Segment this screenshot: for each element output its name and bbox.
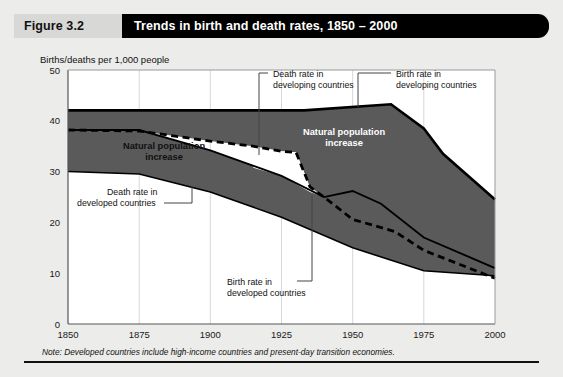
birth-developing-line1: Birth rate in	[396, 69, 441, 79]
chart-svg: 50 40 30 20 10 0 1850 1875 1900 1925 195…	[14, 42, 549, 342]
y-tick-20: 20	[49, 217, 60, 228]
death-developed-line1: Death rate in	[107, 187, 157, 197]
y-tick-40: 40	[49, 115, 60, 126]
figure-number-chip: Figure 3.2	[14, 14, 122, 38]
x-tick-1925: 1925	[271, 329, 292, 340]
nat-pop-right-line1: Natural population	[303, 127, 385, 137]
x-tick-labels: 1850 1875 1900 1925 1950 1975 2000	[57, 329, 505, 340]
death-developing-line1: Death rate in	[273, 69, 323, 79]
x-tick-2000: 2000	[484, 329, 505, 340]
nat-pop-left-line1: Natural population	[123, 141, 205, 151]
birth-developed-line1: Birth rate in	[227, 277, 272, 287]
figure-bottom-rule	[24, 361, 539, 363]
y-tick-0: 0	[55, 319, 60, 330]
birth-developed-line2: developed countries	[227, 288, 306, 298]
x-tick-1900: 1900	[200, 329, 221, 340]
figure-note: Note: Developed countries include high-i…	[42, 347, 395, 357]
figure-container: Figure 3.2 Trends in birth and death rat…	[0, 0, 563, 377]
chart-plot-area: 50 40 30 20 10 0 1850 1875 1900 1925 195…	[14, 42, 549, 342]
figure-header: Figure 3.2 Trends in birth and death rat…	[14, 14, 549, 38]
y-tick-50: 50	[49, 65, 60, 76]
figure-number-text: Figure 3.2	[14, 19, 84, 33]
figure-title-text: Trends in birth and death rates, 1850 – …	[122, 19, 398, 33]
figure-title-bar: Trends in birth and death rates, 1850 – …	[122, 14, 549, 38]
nat-pop-left-line2: increase	[145, 152, 183, 162]
figure-body-panel: Births/deaths per 1,000 people	[14, 42, 549, 342]
y-tick-labels: 50 40 30 20 10 0	[49, 65, 60, 330]
x-tick-1875: 1875	[129, 329, 150, 340]
birth-developing-line2: developing countries	[396, 80, 477, 90]
y-tick-30: 30	[49, 166, 60, 177]
x-tick-1975: 1975	[413, 329, 434, 340]
death-developed-line2: developed countries	[77, 198, 156, 208]
y-tick-10: 10	[49, 268, 60, 279]
x-tick-1850: 1850	[57, 329, 78, 340]
nat-pop-right-line2: increase	[325, 138, 363, 148]
death-developing-line2: developing countries	[273, 80, 354, 90]
x-tick-1950: 1950	[342, 329, 363, 340]
